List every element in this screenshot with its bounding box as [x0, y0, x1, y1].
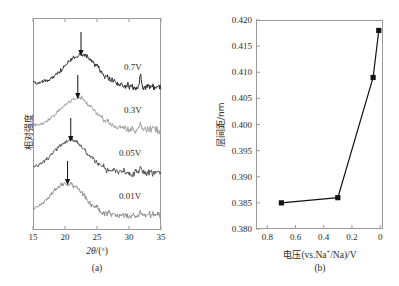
panel-b-plot-frame — [256, 20, 383, 229]
panel-b-ytick-6: 0.410 — [220, 68, 252, 77]
panel-b-xtick-4: 0 — [378, 233, 383, 242]
panel-b-caption: (b) — [314, 263, 325, 273]
panel-b-ytick-8: 0.420 — [220, 16, 252, 25]
panel-a-xrd: 15 20 25 30 35 2θ/(°) 相对强度 0.7V 0.3V 0.0… — [0, 0, 200, 286]
panel-b-yaxis-title: 层间距/nm — [214, 102, 227, 147]
panel-b-ytick-0: 0.380 — [220, 225, 252, 234]
panel-a-xtick-0: 15 — [29, 233, 38, 242]
panel-a-xaxis-title: 2θ/(°) — [86, 246, 108, 256]
panel-a-xtick-3: 30 — [125, 233, 134, 242]
panel-b-ytick-3: 0.395 — [220, 146, 252, 155]
panel-a-caption: (a) — [92, 263, 103, 273]
panel-a-yaxis-title: 相对强度 — [22, 114, 35, 150]
panel-a-curve-label-2: 0.05V — [119, 148, 141, 158]
panel-a-xtick-4: 35 — [157, 233, 166, 242]
panel-b-ytick-2: 0.390 — [220, 172, 252, 181]
panel-b-yaxis-title-text: 层间距/nm — [216, 102, 226, 147]
panel-a-curve-label-0: 0.7V — [124, 62, 142, 72]
panel-b-xtick-3: 0.2 — [346, 233, 357, 242]
figure-root: 15 20 25 30 35 2θ/(°) 相对强度 0.7V 0.3V 0.0… — [0, 0, 399, 286]
panel-b-xtick-1: 0.6 — [290, 233, 301, 242]
panel-a-xtick-1: 20 — [61, 233, 70, 242]
panel-a-plot-frame — [33, 18, 161, 230]
panel-b-dspacing: 0.3800.3850.3900.3950.4000.4050.4100.415… — [200, 0, 399, 286]
panel-b-ytick-7: 0.415 — [220, 42, 252, 51]
panel-b-xtick-2: 0.4 — [318, 233, 329, 242]
panel-a-curve-label-3: 0.01V — [119, 191, 141, 201]
panel-b-xtick-0: 0.8 — [262, 233, 273, 242]
panel-a-curve-label-1: 0.3V — [124, 105, 142, 115]
panel-b-xaxis-title: 电压(vs.Na+/Na)/V — [283, 248, 356, 261]
panel-a-xtick-2: 25 — [93, 233, 102, 242]
panel-b-ytick-1: 0.385 — [220, 198, 252, 207]
